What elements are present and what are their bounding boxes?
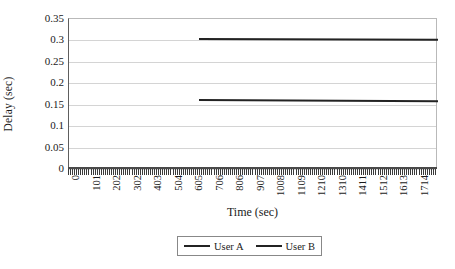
gridline bbox=[69, 126, 436, 127]
y-axis-tick-label: 0.2 bbox=[24, 77, 64, 88]
legend-item[interactable]: User B bbox=[256, 241, 315, 252]
y-axis-tick-label: 0.1 bbox=[24, 120, 64, 131]
chart-container: Delay (sec) 00.050.10.150.20.250.30.35 0… bbox=[0, 0, 455, 269]
legend-label: User B bbox=[286, 241, 315, 252]
chart-legend: User AUser B bbox=[177, 236, 322, 256]
y-axis-tick-label: 0.05 bbox=[24, 142, 64, 153]
legend-line-swatch bbox=[184, 245, 210, 248]
gridline bbox=[69, 62, 436, 63]
y-axis-tick-label: 0 bbox=[24, 163, 64, 174]
y-axis-tick-label: 0.35 bbox=[24, 13, 64, 24]
gridline bbox=[69, 105, 436, 106]
y-axis-title: Delay (sec) bbox=[2, 54, 18, 154]
x-axis-title: Time (sec) bbox=[68, 205, 437, 220]
series-line-user-b bbox=[199, 99, 438, 102]
y-axis-tick-label: 0.3 bbox=[24, 34, 64, 45]
legend-line-swatch bbox=[256, 245, 282, 248]
legend-label: User A bbox=[214, 241, 243, 252]
gridline bbox=[69, 83, 436, 84]
plot-area bbox=[68, 18, 437, 168]
y-axis-tick-label: 0.15 bbox=[24, 99, 64, 110]
legend-item[interactable]: User A bbox=[184, 241, 243, 252]
y-axis-tick-labels: 00.050.10.150.20.250.30.35 bbox=[24, 11, 64, 171]
y-axis-tick-label: 0.25 bbox=[24, 56, 64, 67]
gridline bbox=[69, 148, 436, 149]
